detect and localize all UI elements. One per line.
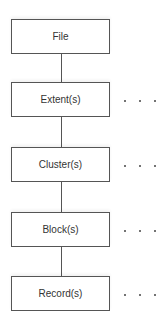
node-label: Cluster(s)	[39, 159, 82, 170]
connector-line	[61, 247, 62, 276]
node-label: Extent(s)	[40, 94, 80, 105]
node-label: Block(s)	[42, 224, 78, 235]
connector-line	[61, 182, 62, 212]
continuation-dots	[121, 292, 161, 298]
connector-line	[61, 54, 62, 82]
continuation-dots	[121, 98, 161, 104]
node-file: File	[11, 19, 110, 54]
continuation-dots	[121, 228, 161, 234]
node-extents: Extent(s)	[11, 82, 110, 117]
node-records: Record(s)	[11, 276, 110, 311]
node-label: Record(s)	[39, 288, 83, 299]
continuation-dots	[121, 163, 161, 169]
node-clusters: Cluster(s)	[11, 147, 110, 182]
connector-line	[61, 117, 62, 147]
node-blocks: Block(s)	[11, 212, 110, 247]
node-label: File	[52, 31, 68, 42]
